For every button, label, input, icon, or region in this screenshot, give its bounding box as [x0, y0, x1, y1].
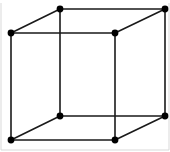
cube-vertex-back-bottom-left — [57, 113, 64, 120]
cube-vertex-back-bottom-right — [162, 113, 169, 120]
cube-vertex-front-top-left — [8, 30, 15, 37]
diagram-background — [0, 0, 170, 152]
wireframe-cube-svg — [0, 0, 170, 152]
cube-vertex-front-top-right — [112, 30, 119, 37]
cube-diagram-canvas — [0, 0, 170, 152]
cube-vertex-front-bottom-left — [8, 137, 15, 144]
cube-vertex-back-top-right — [162, 6, 169, 13]
cube-vertex-front-bottom-right — [112, 137, 119, 144]
cube-vertex-back-top-left — [57, 6, 64, 13]
